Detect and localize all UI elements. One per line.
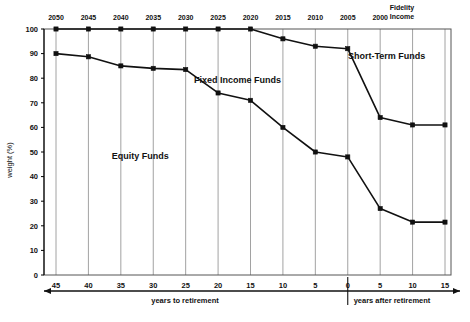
- y-tick-label-100: 100: [25, 25, 38, 34]
- x-tick-label-2: 35: [117, 281, 125, 290]
- x-axis-title-right: years after retirement: [354, 296, 431, 305]
- data-point-0-11: [410, 220, 414, 224]
- x-tick-label-8: 5: [313, 281, 317, 290]
- x-tick-label-12: 15: [441, 281, 449, 290]
- data-point-1-10: [378, 115, 382, 119]
- data-point-0-2: [119, 64, 123, 68]
- x-tick-label-0: 45: [52, 281, 60, 290]
- data-point-1-0: [54, 27, 58, 31]
- series-annotations: Equity FundsFixed Income FundsShort-Term…: [112, 51, 426, 162]
- x-axis-tick-labels: 45403530252015105051015: [52, 281, 449, 290]
- plot-area-border: [44, 29, 451, 275]
- data-point-1-11: [410, 123, 414, 127]
- top-tick-label-2045: 2045: [81, 14, 97, 21]
- x-tick-label-11: 10: [408, 281, 416, 290]
- data-point-0-4: [184, 67, 188, 71]
- y-tick-label-80: 80: [30, 74, 38, 83]
- y-axis-tick-labels: 0102030405060708090100: [25, 25, 38, 280]
- top-tick-label-2025: 2025: [210, 14, 226, 21]
- data-point-1-4: [184, 27, 188, 31]
- annotation-0: Equity Funds: [112, 151, 169, 161]
- y-tick-label-10: 10: [30, 246, 38, 255]
- data-point-1-7: [281, 37, 285, 41]
- annotation-2: Short-Term Funds: [348, 51, 425, 61]
- data-point-0-0: [54, 52, 58, 56]
- data-point-1-12: [443, 123, 447, 127]
- y-tick-label-50: 50: [30, 148, 38, 157]
- top-tick-label-2050: 2050: [48, 14, 64, 21]
- data-point-1-8: [313, 44, 317, 48]
- top-axis-tick-labels: 2050204520402035203020252020201520102005…: [48, 14, 388, 21]
- x-axis-title-left: years to retirement: [151, 296, 219, 305]
- data-point-0-6: [248, 98, 252, 102]
- fidelity-income-label-line2: Income: [390, 13, 415, 20]
- data-point-0-10: [378, 206, 382, 210]
- chart-container: 0102030405060708090100 45403530252015105…: [0, 0, 470, 322]
- x-tick-label-1: 40: [84, 281, 92, 290]
- data-point-1-2: [119, 27, 123, 31]
- top-tick-label-2005: 2005: [340, 14, 356, 21]
- y-tick-label-20: 20: [30, 222, 38, 231]
- data-point-1-3: [151, 27, 155, 31]
- data-point-1-6: [248, 27, 252, 31]
- data-point-0-9: [346, 155, 350, 159]
- y-tick-label-70: 70: [30, 99, 38, 108]
- data-point-0-1: [86, 55, 90, 59]
- data-point-1-5: [216, 27, 220, 31]
- right-arrow-head: [453, 288, 460, 294]
- data-point-0-8: [313, 150, 317, 154]
- top-tick-label-2030: 2030: [178, 14, 194, 21]
- x-tick-label-10: 5: [378, 281, 382, 290]
- top-tick-label-2015: 2015: [275, 14, 291, 21]
- fidelity-income-label-line1: Fidelity: [390, 4, 415, 12]
- top-tick-label-2000: 2000: [372, 14, 388, 21]
- data-point-0-7: [281, 125, 285, 129]
- y-tick-label-40: 40: [30, 172, 38, 181]
- y-tick-label-30: 30: [30, 197, 38, 206]
- plot-frame: [44, 29, 451, 275]
- data-point-0-5: [216, 91, 220, 95]
- top-tick-label-2040: 2040: [113, 14, 129, 21]
- annotation-1: Fixed Income Funds: [194, 75, 281, 85]
- y-tick-label-90: 90: [30, 49, 38, 58]
- x-tick-label-6: 15: [246, 281, 254, 290]
- x-tick-label-4: 25: [181, 281, 189, 290]
- left-arrow-head: [44, 288, 51, 294]
- x-tick-label-5: 20: [214, 281, 222, 290]
- top-tick-label-2020: 2020: [243, 14, 259, 21]
- top-tick-label-2035: 2035: [145, 14, 161, 21]
- y-tick-label-60: 60: [30, 123, 38, 132]
- x-tick-label-7: 10: [279, 281, 287, 290]
- top-tick-label-2010: 2010: [308, 14, 324, 21]
- x-tick-label-3: 30: [149, 281, 157, 290]
- y-tick-label-0: 0: [34, 271, 38, 280]
- y-axis-title: weight (%): [5, 142, 14, 179]
- data-point-0-12: [443, 220, 447, 224]
- data-point-1-1: [86, 27, 90, 31]
- data-point-0-3: [151, 66, 155, 70]
- asset-allocation-glidepath-chart: 0102030405060708090100 45403530252015105…: [0, 0, 470, 322]
